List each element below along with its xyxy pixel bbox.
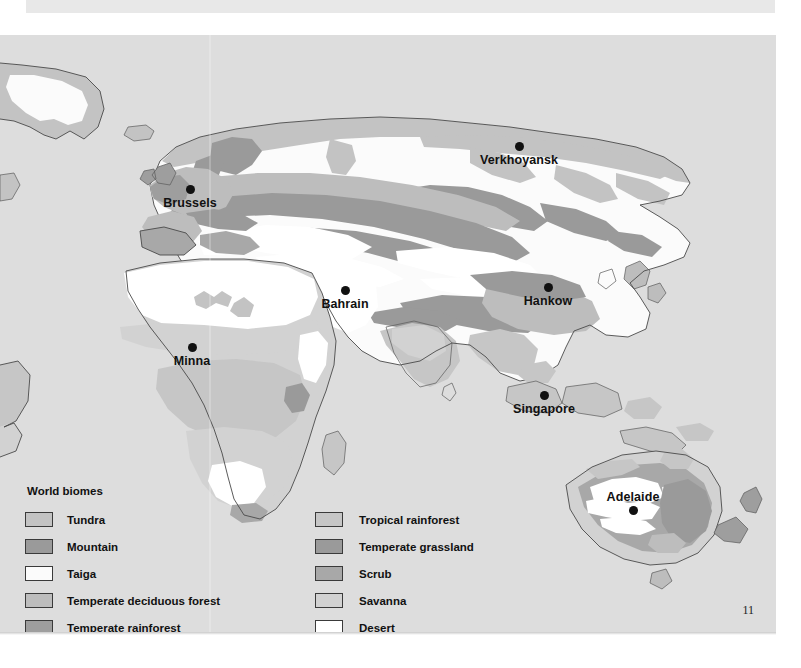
legend-item-tropical-rainforest[interactable]: Tropical rainforest xyxy=(315,506,474,533)
city-label: Verkhoyansk xyxy=(480,153,558,167)
previous-page-edge xyxy=(26,0,775,13)
city-dot xyxy=(188,343,197,352)
map-legend: World biomes Tundra Mountain Taiga xyxy=(25,485,545,632)
city-dot xyxy=(540,391,549,400)
map-page-sheet: .ocean { fill:#dddddd; } .tundra { fill:… xyxy=(0,35,776,632)
legend-column-right: Tropical rainforest Temperate grassland … xyxy=(315,506,474,632)
city-dot xyxy=(515,142,524,151)
legend-item-temperate-deciduous-forest[interactable]: Temperate deciduous forest xyxy=(25,587,315,614)
page-gap xyxy=(0,13,801,35)
legend-label: Desert xyxy=(359,622,395,633)
legend-swatch-desert xyxy=(315,620,343,632)
city-label: Minna xyxy=(174,354,211,368)
city-dot xyxy=(341,286,350,295)
city-dot xyxy=(544,283,553,292)
legend-item-tundra[interactable]: Tundra xyxy=(25,506,315,533)
legend-swatch-mountain xyxy=(25,539,53,554)
city-label: Bahrain xyxy=(321,297,368,311)
legend-swatch-taiga xyxy=(25,566,53,581)
city-label: Brussels xyxy=(163,196,217,210)
city-dot xyxy=(186,185,195,194)
legend-swatch-tundra xyxy=(25,512,53,527)
legend-swatch-savanna xyxy=(315,593,343,608)
legend-item-temperate-rainforest[interactable]: Temperate rainforest xyxy=(25,614,315,632)
legend-swatch-scrub xyxy=(315,566,343,581)
legend-label: Temperate grassland xyxy=(359,541,474,553)
city-label: Singapore xyxy=(513,402,575,416)
legend-label: Scrub xyxy=(359,568,392,580)
legend-label: Tropical rainforest xyxy=(359,514,459,526)
city-dot xyxy=(629,506,638,515)
page-number: 11 xyxy=(742,603,754,618)
city-label: Adelaide xyxy=(607,490,660,504)
legend-title: World biomes xyxy=(27,485,545,497)
legend-label: Temperate rainforest xyxy=(67,622,181,633)
legend-swatch-temperate-rainforest xyxy=(25,620,53,632)
legend-swatch-temperate-grassland xyxy=(315,539,343,554)
legend-label: Savanna xyxy=(359,595,406,607)
legend-swatch-temperate-deciduous-forest xyxy=(25,593,53,608)
legend-item-mountain[interactable]: Mountain xyxy=(25,533,315,560)
legend-item-savanna[interactable]: Savanna xyxy=(315,587,474,614)
legend-swatch-tropical-rainforest xyxy=(315,512,343,527)
legend-item-desert[interactable]: Desert xyxy=(315,614,474,632)
page-root: .ocean { fill:#dddddd; } .tundra { fill:… xyxy=(0,0,801,668)
legend-label: Temperate deciduous forest xyxy=(67,595,220,607)
page-bottom-shadow xyxy=(0,632,776,635)
legend-item-taiga[interactable]: Taiga xyxy=(25,560,315,587)
city-label: Hankow xyxy=(524,294,573,308)
legend-label: Mountain xyxy=(67,541,118,553)
legend-item-scrub[interactable]: Scrub xyxy=(315,560,474,587)
legend-column-left: Tundra Mountain Taiga Temperate deciduou… xyxy=(25,506,315,632)
legend-label: Tundra xyxy=(67,514,105,526)
legend-label: Taiga xyxy=(67,568,96,580)
legend-item-temperate-grassland[interactable]: Temperate grassland xyxy=(315,533,474,560)
